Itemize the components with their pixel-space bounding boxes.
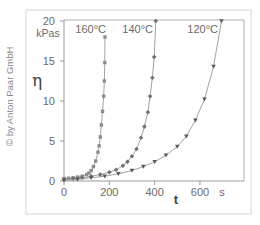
x-tick-label: 400 <box>145 186 163 198</box>
data-point <box>89 169 92 172</box>
data-point <box>101 110 104 113</box>
data-point <box>102 95 105 98</box>
x-tick-label: 0 <box>61 186 67 198</box>
series-label: 140°C <box>122 23 153 35</box>
y-tick-label: 5 <box>49 135 55 147</box>
data-point <box>92 165 95 168</box>
data-point <box>103 61 106 64</box>
outer-frame <box>26 10 251 214</box>
y-tick-label: 10 <box>43 95 55 107</box>
data-point <box>103 79 106 82</box>
copyright-text: © by Anton Paar GmbH <box>4 46 15 146</box>
x-unit-label: s <box>219 186 225 198</box>
series-label: 160°C <box>75 23 106 35</box>
data-point <box>96 151 99 154</box>
x-tick-label: 600 <box>191 186 209 198</box>
data-point <box>97 144 100 147</box>
x-axis-label: t <box>174 192 179 207</box>
y-tick-label: 15 <box>43 55 55 67</box>
data-point <box>100 123 103 126</box>
y-tick-label: 0 <box>49 175 55 187</box>
data-point <box>99 135 102 138</box>
x-tick-label: 200 <box>100 186 118 198</box>
y-axis-label: η <box>32 70 42 90</box>
y-unit-label: kPas <box>36 27 59 39</box>
data-point <box>103 35 106 38</box>
y-tick-label: 20 <box>43 15 55 27</box>
chart: 051015200200400600kPasηst160°C140°C120°C <box>0 0 260 225</box>
series-label: 120°C <box>187 23 218 35</box>
copyright-notice: © by Anton Paar GmbH <box>3 6 17 146</box>
data-point <box>94 159 97 162</box>
